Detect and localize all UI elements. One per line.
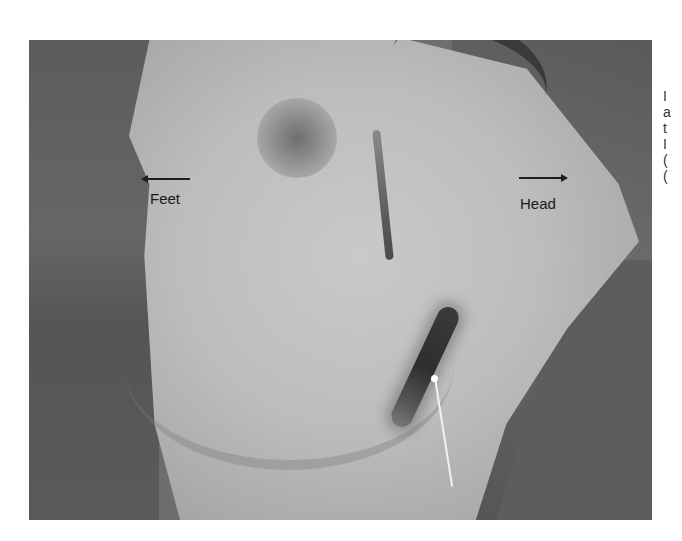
- clinical-photo: Feet Head: [29, 40, 652, 520]
- feet-arrow-line: [146, 178, 190, 180]
- caption-fragment: (: [663, 152, 682, 168]
- caption-fragment: a: [663, 104, 682, 120]
- caption-fragment: (: [663, 168, 682, 184]
- head-arrow-icon: [561, 174, 568, 182]
- caption-fragment: I: [663, 88, 682, 104]
- feet-label: Feet: [150, 190, 180, 207]
- head-arrow-line: [519, 177, 563, 179]
- caption-fragment: t: [663, 120, 682, 136]
- skin-fold-shadow: [124, 260, 454, 470]
- feet-arrow-icon: [141, 175, 148, 183]
- caption-fragment: I: [663, 136, 682, 152]
- head-label: Head: [520, 195, 556, 212]
- clipped-caption-text: I a t I ( (: [663, 88, 682, 184]
- pointer-arrow-tip: [431, 375, 438, 382]
- nipple-areola: [257, 98, 337, 178]
